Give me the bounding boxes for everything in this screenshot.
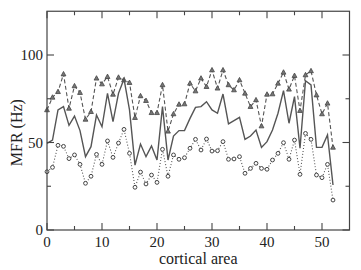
x-tick-label: 30 xyxy=(205,234,220,250)
triangle-marker xyxy=(182,101,187,105)
circle-marker xyxy=(133,185,137,189)
x-tick-label: 50 xyxy=(315,234,330,250)
triangle-marker xyxy=(94,76,99,80)
triangle-marker xyxy=(61,71,66,75)
circle-marker xyxy=(95,153,99,157)
triangle-marker xyxy=(166,129,171,133)
circle-marker xyxy=(276,151,280,155)
circle-marker xyxy=(150,173,154,177)
circle-marker xyxy=(221,140,225,144)
x-tick-label: 0 xyxy=(43,234,51,250)
x-axis-label: cortical area xyxy=(159,250,238,267)
triangle-marker xyxy=(226,82,231,86)
triangle-marker xyxy=(188,81,193,85)
y-axis-label: MFR (Hz) xyxy=(8,99,26,166)
circle-marker xyxy=(51,165,55,169)
triangle-marker xyxy=(243,91,248,95)
triangle-marker xyxy=(78,90,83,94)
circle-marker xyxy=(331,198,335,202)
triangle-marker xyxy=(292,73,297,77)
x-tick-label: 20 xyxy=(150,234,165,250)
triangle-marker xyxy=(133,115,138,119)
circle-marker xyxy=(199,148,203,152)
triangle-marker xyxy=(320,111,325,115)
circle-marker xyxy=(249,167,253,171)
triangle-marker xyxy=(287,87,292,91)
circle-marker xyxy=(298,172,302,176)
triangle-marker xyxy=(149,110,154,114)
circle-marker xyxy=(56,143,60,147)
triangle-marker xyxy=(56,89,61,93)
triangle-marker xyxy=(210,67,215,71)
circle-marker xyxy=(232,157,236,161)
triangle-marker xyxy=(259,123,264,127)
circle-marker xyxy=(293,138,297,142)
circle-marker xyxy=(161,147,165,151)
triangle-marker xyxy=(138,93,143,97)
circle-marker xyxy=(139,170,143,174)
circle-marker xyxy=(177,157,181,161)
circle-marker xyxy=(144,182,148,186)
triangle-marker xyxy=(89,109,94,113)
circle-marker xyxy=(188,146,192,150)
circle-marker xyxy=(227,157,231,161)
tick-labels-layer: 01020304050050100 xyxy=(21,47,330,250)
triangle-marker xyxy=(314,92,319,96)
triangle-marker xyxy=(281,70,286,74)
series-lower xyxy=(45,127,335,202)
triangle-marker xyxy=(67,106,72,110)
triangle-marker xyxy=(72,83,77,87)
x-tick-label: 40 xyxy=(260,234,275,250)
circle-marker xyxy=(309,137,313,141)
plot-frame xyxy=(47,11,350,230)
circle-marker xyxy=(128,151,132,155)
mfr-line-chart: 01020304050050100 cortical area MFR (Hz) xyxy=(0,0,361,270)
y-tick-label: 50 xyxy=(28,135,43,151)
circle-marker xyxy=(62,144,66,148)
series-layer xyxy=(45,67,336,202)
circle-marker xyxy=(73,153,77,157)
triangle-marker xyxy=(105,74,110,78)
triangle-marker xyxy=(221,67,226,71)
circle-marker xyxy=(100,162,104,166)
ticks-layer xyxy=(47,11,350,230)
circle-marker xyxy=(271,158,275,162)
circle-marker xyxy=(84,181,88,185)
circle-marker xyxy=(304,132,308,136)
circle-marker xyxy=(287,157,291,161)
circle-marker xyxy=(265,167,269,171)
circle-marker xyxy=(315,173,319,177)
circle-marker xyxy=(260,167,264,171)
circle-marker xyxy=(216,149,220,153)
y-tick-label: 100 xyxy=(21,47,44,63)
circle-marker xyxy=(205,137,209,141)
triangle-marker xyxy=(116,75,121,79)
circle-marker xyxy=(282,141,286,145)
triangle-marker xyxy=(199,76,204,80)
circle-marker xyxy=(320,176,324,180)
triangle-marker xyxy=(160,82,165,86)
circle-marker xyxy=(111,155,115,159)
circle-marker xyxy=(243,171,247,175)
series-line xyxy=(47,129,333,200)
triangle-marker xyxy=(111,92,116,96)
series-middle xyxy=(47,79,333,185)
circle-marker xyxy=(210,149,214,153)
triangle-marker xyxy=(331,145,336,149)
circle-marker xyxy=(194,137,198,141)
series-line xyxy=(47,79,333,185)
triangle-marker xyxy=(237,77,242,81)
triangle-marker xyxy=(215,86,220,90)
triangle-marker xyxy=(309,68,314,72)
triangle-marker xyxy=(144,98,149,102)
circle-marker xyxy=(122,127,126,131)
circle-marker xyxy=(67,157,71,161)
triangle-marker xyxy=(83,117,88,121)
triangle-marker xyxy=(325,101,330,105)
circle-marker xyxy=(172,153,176,157)
circle-marker xyxy=(183,156,187,160)
circle-marker xyxy=(89,174,93,178)
circle-marker xyxy=(326,162,330,166)
circle-marker xyxy=(106,139,110,143)
triangle-marker xyxy=(276,81,281,85)
